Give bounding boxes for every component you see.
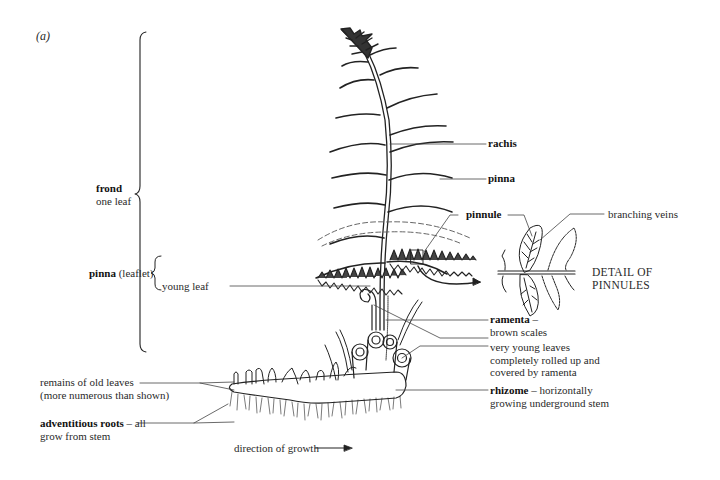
panel-label: (a) bbox=[36, 30, 50, 43]
adventitious-term: adventitious roots bbox=[40, 417, 124, 429]
label-frond: frond one leaf bbox=[96, 182, 131, 207]
pinna-leaflet-term: pinna bbox=[89, 267, 116, 279]
adventitious-roots bbox=[230, 392, 401, 420]
vyl-line2: completely rolled up and bbox=[490, 354, 600, 366]
label-adventitious-roots: adventitious roots – all grow from stem bbox=[40, 417, 146, 442]
remains-line1: remains of old leaves bbox=[40, 376, 134, 388]
pinnule-detail-drawing bbox=[498, 225, 576, 316]
label-rachis: rachis bbox=[488, 137, 517, 150]
old-leaf-remains bbox=[234, 362, 356, 384]
label-rhizome: rhizome – horizontally growing undergrou… bbox=[490, 384, 609, 409]
remains-line2: (more numerous than shown) bbox=[40, 389, 169, 401]
frond-term: frond bbox=[96, 182, 122, 194]
fern-diagram: (a) frond one leaf rachis pinna pinnule … bbox=[0, 0, 720, 480]
label-detail-of-pinnules: DETAIL OF PINNULES bbox=[592, 266, 652, 292]
ramenta-stalks bbox=[325, 296, 422, 380]
pinna-leaflet-desc: (leaflet) bbox=[119, 267, 154, 279]
label-young-leaf: young leaf bbox=[162, 280, 209, 293]
frond-brace bbox=[135, 32, 146, 352]
direction-desc: direction of growth bbox=[234, 442, 319, 454]
label-pinna-leaflet: pinna (leaflet) bbox=[89, 267, 153, 280]
vyl-line3: covered by ramenta bbox=[490, 366, 577, 378]
label-pinnule: pinnule bbox=[466, 208, 501, 221]
ramenta-sep: – bbox=[530, 313, 538, 325]
dashed-pinnae bbox=[318, 222, 470, 246]
detail-line2: PINNULES bbox=[592, 279, 650, 291]
label-remains-old-leaves: remains of old leaves (more numerous tha… bbox=[40, 376, 169, 401]
pinna-term: pinna bbox=[488, 172, 515, 184]
ramenta-desc: brown scales bbox=[490, 326, 547, 338]
fern-illustration bbox=[0, 0, 720, 480]
label-pinna: pinna bbox=[488, 172, 515, 185]
adventitious-line2: grow from stem bbox=[40, 430, 110, 442]
rhizome-term: rhizome bbox=[490, 384, 528, 396]
frond-desc: one leaf bbox=[96, 195, 131, 207]
young-leaf-crozier bbox=[360, 289, 376, 330]
label-very-young-leaves: very young leaves completely rolled up a… bbox=[490, 341, 600, 379]
branching-veins-desc: branching veins bbox=[608, 208, 678, 220]
rachis-stalk bbox=[364, 52, 391, 330]
label-branching-veins: branching veins bbox=[608, 208, 678, 221]
rachis-term: rachis bbox=[488, 137, 517, 149]
young-leaf-desc: young leaf bbox=[162, 280, 209, 292]
ramenta-term: ramenta bbox=[490, 313, 530, 325]
pinnule-term: pinnule bbox=[466, 208, 501, 220]
pinna-leaflet bbox=[316, 249, 476, 295]
pinnae-right bbox=[370, 48, 453, 212]
rhizome-sep: – horizontally bbox=[528, 384, 592, 396]
label-ramenta: ramenta – brown scales bbox=[490, 313, 547, 338]
rhizome-line2: growing underground stem bbox=[490, 397, 609, 409]
detail-line1: DETAIL OF bbox=[592, 266, 652, 278]
label-direction-of-growth: direction of growth bbox=[234, 442, 319, 455]
adventitious-sep: – all bbox=[124, 417, 146, 429]
vyl-line1: very young leaves bbox=[490, 341, 570, 353]
